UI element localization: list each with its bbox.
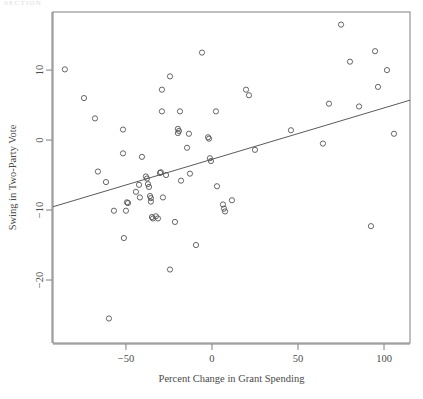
data-point: [120, 151, 125, 156]
data-point: [229, 198, 234, 203]
data-point: [213, 109, 218, 114]
data-point: [167, 74, 172, 79]
data-point: [206, 136, 211, 141]
data-point: [133, 189, 138, 194]
scatter-plot: −50050100 100−10−20 Percent Change in Gr…: [0, 0, 423, 399]
data-point: [177, 109, 182, 114]
data-point: [252, 147, 257, 152]
data-point: [159, 109, 164, 114]
y-tick-label: 10: [34, 65, 45, 76]
data-point: [187, 171, 192, 176]
data-point: [92, 116, 97, 121]
data-point: [137, 195, 142, 200]
data-point: [326, 101, 331, 106]
x-tick-label: 100: [376, 353, 392, 364]
y-axis-title: Swing in Two-Party Vote: [7, 124, 18, 230]
data-point: [288, 128, 293, 133]
data-point: [372, 49, 377, 54]
data-point: [120, 127, 125, 132]
plot-frame: [53, 12, 410, 343]
data-point: [178, 178, 183, 183]
y-tick-label: −10: [34, 202, 45, 218]
data-point: [172, 219, 177, 224]
data-point: [368, 224, 373, 229]
data-point: [148, 199, 153, 204]
data-point: [186, 131, 191, 136]
x-tick-label: −50: [118, 353, 134, 364]
data-point: [384, 67, 389, 72]
data-point: [320, 141, 325, 146]
data-point: [160, 195, 165, 200]
data-point: [193, 242, 198, 247]
data-point: [199, 50, 204, 55]
data-point: [159, 87, 164, 92]
data-point: [95, 169, 100, 174]
data-point: [243, 87, 248, 92]
data-point: [111, 208, 116, 213]
data-point: [139, 154, 144, 159]
data-point: [81, 95, 86, 100]
y-tick-label: 0: [34, 137, 45, 142]
data-point: [123, 208, 128, 213]
figure-container: SECTION −50050100 100−10−20 Percent Chan…: [0, 0, 423, 399]
x-tick-label: 50: [293, 353, 304, 364]
x-axis-ticks: −50050100: [53, 344, 410, 364]
data-point: [184, 145, 189, 150]
data-point: [62, 67, 67, 72]
data-point: [136, 182, 141, 187]
data-point: [121, 235, 126, 240]
data-points-layer: [62, 22, 396, 321]
data-point: [214, 184, 219, 189]
data-point: [167, 267, 172, 272]
regression-line: [53, 100, 410, 207]
regression-line-layer: [53, 100, 410, 207]
data-point: [106, 316, 111, 321]
x-axis-title: Percent Change in Grant Spending: [159, 373, 306, 384]
data-point: [356, 104, 361, 109]
x-tick-label: 0: [209, 353, 214, 364]
y-axis-ticks: 100−10−20: [34, 12, 52, 343]
data-point: [338, 22, 343, 27]
data-point: [391, 131, 396, 136]
data-point: [103, 179, 108, 184]
data-point: [246, 93, 251, 98]
data-point: [347, 59, 352, 64]
data-point: [375, 84, 380, 89]
y-tick-label: −20: [34, 272, 45, 288]
